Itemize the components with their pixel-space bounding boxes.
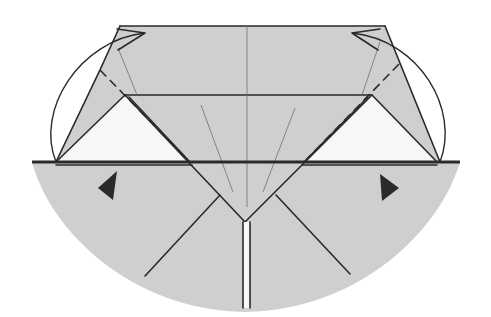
- origami-diagram: [0, 0, 491, 317]
- center-strip: [243, 222, 250, 308]
